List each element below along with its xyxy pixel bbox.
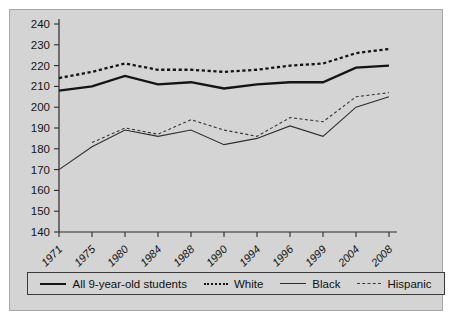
y-tick-label: 150: [31, 205, 50, 217]
legend-item-all-students: All 9-year-old students: [40, 278, 186, 290]
y-tick-label: 230: [31, 39, 50, 51]
series-line-black: [59, 97, 389, 170]
x-tick-label: 1980: [105, 242, 131, 268]
legend-swatch-dashed-thick-icon: [204, 283, 228, 285]
legend-swatch-solid-thick-icon: [40, 283, 66, 285]
x-tick-label: 1999: [303, 243, 329, 269]
x-tick-label: 1975: [72, 242, 98, 268]
legend-item-black: Black: [280, 278, 340, 290]
chart-plate: 140150160170180190200210220230240 197119…: [9, 9, 443, 311]
x-tick-label: 2004: [335, 243, 362, 270]
legend-label-white: White: [234, 278, 263, 290]
y-tick-label: 190: [31, 122, 50, 134]
y-tick-label: 210: [31, 80, 50, 92]
x-tick-label: 1990: [204, 242, 230, 268]
chart-legend: All 9-year-old students White Black Hisp…: [27, 272, 445, 295]
legend-swatch-solid-thin-icon: [280, 283, 306, 284]
series-line-all-9-year-old-students: [59, 66, 389, 91]
y-tick-label: 200: [31, 101, 50, 113]
y-tick-label: 160: [31, 184, 50, 196]
legend-item-white: White: [204, 278, 263, 290]
line-chart: 140150160170180190200210220230240 197119…: [10, 10, 442, 310]
x-tick-label: 1984: [138, 243, 164, 269]
x-tick-label: 2008: [368, 242, 395, 269]
y-tick-label: 170: [31, 164, 50, 176]
y-tick-label: 140: [31, 226, 50, 238]
y-axis: 140150160170180190200210220230240: [31, 18, 59, 238]
y-tick-label: 180: [31, 143, 50, 155]
legend-item-hispanic: Hispanic: [357, 278, 431, 290]
x-axis: 1971197519801984198819901994199619992004…: [39, 232, 397, 269]
x-tick-label: 1971: [39, 243, 65, 269]
y-tick-label: 220: [31, 60, 50, 72]
legend-swatch-dashed-thin-icon: [357, 283, 381, 284]
x-tick-label: 1988: [171, 242, 197, 268]
legend-label-all-students: All 9-year-old students: [72, 278, 186, 290]
x-tick-label: 1994: [237, 243, 263, 269]
x-tick-label: 1996: [270, 242, 296, 268]
series-lines: [59, 49, 389, 170]
legend-label-black: Black: [312, 278, 340, 290]
figure-canvas: 140150160170180190200210220230240 197119…: [0, 0, 452, 320]
legend-label-hispanic: Hispanic: [387, 278, 431, 290]
y-tick-label: 240: [31, 18, 50, 30]
